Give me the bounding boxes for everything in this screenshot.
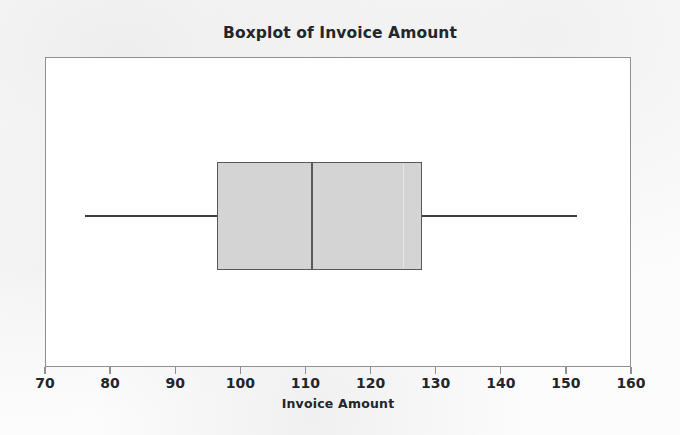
x-tick-mark-140	[500, 367, 501, 374]
x-tick-label-140: 140	[486, 375, 515, 391]
x-tick-mark-70	[44, 367, 45, 374]
x-tick-label-120: 120	[356, 375, 385, 391]
x-tick-mark-110	[305, 367, 306, 374]
x-axis-tick-marks	[45, 367, 631, 375]
x-tick-label-80: 80	[100, 375, 119, 391]
x-tick-mark-150	[565, 367, 566, 374]
x-tick-mark-130	[435, 367, 436, 374]
median-line	[311, 162, 313, 270]
chart-title: Boxplot of Invoice Amount	[0, 24, 680, 42]
x-tick-label-130: 130	[421, 375, 450, 391]
plot-frame	[45, 57, 631, 367]
x-tick-label-90: 90	[165, 375, 184, 391]
x-tick-mark-100	[240, 367, 241, 374]
x-tick-label-70: 70	[35, 375, 54, 391]
x-tick-label-160: 160	[616, 375, 645, 391]
whisker-left	[85, 215, 217, 217]
x-tick-label-100: 100	[226, 375, 255, 391]
x-tick-label-150: 150	[551, 375, 580, 391]
whisker-right	[422, 215, 577, 217]
x-axis-tick-labels: 708090100110120130140150160	[45, 375, 631, 395]
x-tick-mark-80	[109, 367, 110, 374]
x-tick-mark-90	[175, 367, 176, 374]
x-tick-mark-120	[370, 367, 371, 374]
x-tick-label-110: 110	[291, 375, 320, 391]
box-iqr-rect	[217, 162, 422, 270]
box-inner-faint-line	[403, 164, 404, 268]
x-tick-mark-160	[630, 367, 631, 374]
x-axis-label: Invoice Amount	[45, 396, 631, 411]
plot-area	[46, 58, 630, 366]
page-background: Boxplot of Invoice Amount 70809010011012…	[0, 0, 680, 435]
